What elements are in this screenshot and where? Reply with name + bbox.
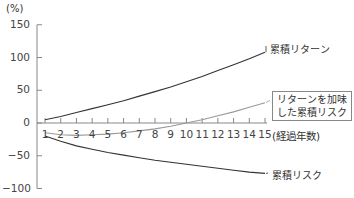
series-cumulative-return — [45, 52, 265, 119]
label-risk-adjusted-line2: した累積リスク — [277, 106, 347, 119]
y-tick-label: 100 — [2, 51, 30, 63]
x-tick-label: 13 — [226, 128, 242, 140]
x-axis-unit: (経過年数) — [272, 128, 320, 143]
label-cumulative-risk: 累積リスク — [272, 167, 322, 182]
x-tick-label: 9 — [163, 128, 179, 140]
label-risk-adjusted-line1: リターンを加味 — [277, 93, 347, 106]
x-tick-label: 11 — [194, 128, 210, 140]
x-tick-label: 6 — [116, 128, 132, 140]
x-tick-label: 8 — [147, 128, 163, 140]
x-tick-label: 1 — [37, 128, 53, 140]
y-tick-label: 0 — [2, 116, 30, 128]
label-risk-adjusted: リターンを加味 した累積リスク — [272, 91, 352, 121]
x-tick-label: 4 — [84, 128, 100, 140]
x-tick-label: 10 — [178, 128, 194, 140]
series-cumulative-risk — [45, 136, 265, 173]
x-tick-label: 3 — [68, 128, 84, 140]
x-tick-label: 12 — [210, 128, 226, 140]
y-tick-label: 50 — [2, 83, 30, 95]
leader-adjusted — [266, 100, 270, 103]
label-cumulative-return: 累積リターン — [270, 41, 330, 56]
y-tick-label: −100 — [2, 182, 30, 194]
x-tick-label: 2 — [53, 128, 69, 140]
x-tick-label: 15 — [257, 128, 273, 140]
x-tick-label: 7 — [131, 128, 147, 140]
y-axis-unit: (%) — [6, 3, 23, 14]
y-tick-label: −50 — [2, 149, 30, 161]
x-tick-label: 5 — [100, 128, 116, 140]
y-tick-label: 150 — [2, 18, 30, 30]
x-tick-label: 14 — [241, 128, 257, 140]
